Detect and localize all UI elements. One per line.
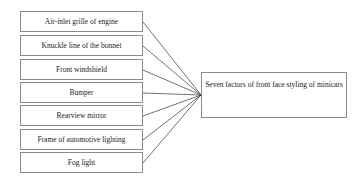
- factor-box-knuckle-line: Knuckle line of the bonnet: [20, 35, 143, 56]
- factor-label: Front windshield: [56, 65, 107, 74]
- factor-box-automotive-lighting-frame: Frame of automotive lighting: [20, 129, 143, 150]
- target-label: Seven factors of front face styling of m…: [205, 80, 343, 89]
- factor-label: Fog light: [68, 158, 95, 167]
- connector-line: [143, 46, 201, 95]
- factor-label: Air-inlet grille of engine: [45, 17, 118, 26]
- factor-box-fog-light: Fog light: [20, 152, 143, 173]
- connector-line: [143, 93, 201, 95]
- connector-line: [143, 22, 201, 95]
- connector-line: [143, 70, 201, 95]
- factor-box-air-inlet-grille: Air-inlet grille of engine: [20, 11, 143, 32]
- factor-box-rearview-mirror: Rearview mirror: [20, 105, 143, 126]
- factor-label: Rearview mirror: [57, 111, 107, 120]
- factor-label: Bumper: [69, 88, 93, 97]
- factor-label: Knuckle line of the bonnet: [42, 41, 122, 50]
- factor-label: Frame of automotive lighting: [37, 135, 125, 144]
- connector-line: [143, 95, 201, 140]
- target-box: Seven factors of front face styling of m…: [201, 72, 347, 118]
- factor-box-front-windshield: Front windshield: [20, 59, 143, 80]
- factor-box-bumper: Bumper: [20, 82, 143, 103]
